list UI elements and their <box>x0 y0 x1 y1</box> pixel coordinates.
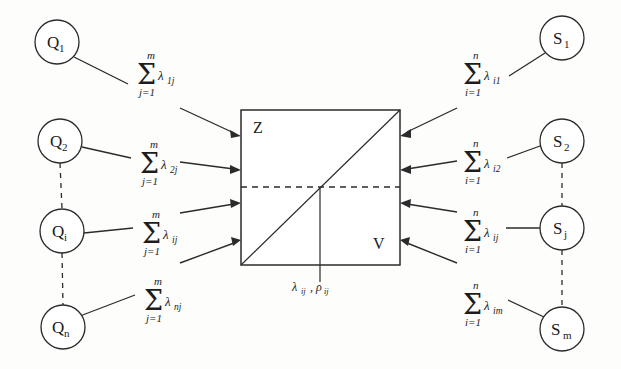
link-q2-to-sum2 <box>82 147 131 158</box>
sum-expression-right-3: n Σ i=1 λ ij <box>463 206 499 255</box>
caption-lambda-subscript: ij <box>301 286 306 296</box>
node-q2-base: Q <box>50 132 62 151</box>
sum-left-1-term-subscript: 1j <box>167 76 175 86</box>
dashed-connector-q2-qi <box>60 163 62 209</box>
arrow-right-1 <box>400 108 457 138</box>
caption-rho-subscript: ij <box>324 286 329 296</box>
flow-diagram: Z V λ ij , ρ ij Q 1 Q 2 Q i Q n <box>0 0 621 369</box>
sum-right-2-term: λ <box>483 156 490 171</box>
arrow-right-3 <box>400 199 457 212</box>
link-s2-to-sum2 <box>507 146 540 158</box>
sum-left-4-term: λ <box>164 294 171 309</box>
sum-left-1-term: λ <box>157 68 164 83</box>
arrow-right-2 <box>400 161 457 174</box>
sum-right-2-lower-limit: i=1 <box>465 174 481 186</box>
node-qi[interactable]: Q i <box>40 209 84 253</box>
sum-left-3-term: λ <box>162 227 169 242</box>
node-qi-base: Q <box>52 222 64 241</box>
sum-left-3-lower-limit: j=1 <box>142 245 160 257</box>
link-sm-to-sum4 <box>508 300 544 317</box>
sum-left-2-lower-limit: j=1 <box>140 175 158 187</box>
sum-right-4-term-subscript: im <box>493 306 503 316</box>
dashed-connector-qi-qn <box>62 253 63 305</box>
arrow-right-4 <box>400 237 457 263</box>
sum-right-3-term: λ <box>483 225 490 240</box>
sum-right-1-term: λ <box>483 68 490 83</box>
sum-right-3-term-subscript: ij <box>493 233 499 243</box>
sum-right-4-lower-limit: i=1 <box>465 316 481 328</box>
box-label-v: V <box>373 235 385 252</box>
sum-right-4-term: λ <box>483 298 490 313</box>
node-q1-subscript: 1 <box>59 42 65 54</box>
node-sm[interactable]: S m <box>540 307 584 351</box>
box-label-z: Z <box>253 119 263 136</box>
node-q2[interactable]: Q 2 <box>38 119 82 163</box>
node-s1-base: S <box>553 29 562 48</box>
node-s1-subscript: 1 <box>564 38 570 50</box>
caption-lambda: λ <box>291 280 297 294</box>
arrow-left-4 <box>180 237 241 263</box>
node-sj-subscript: j <box>563 228 567 240</box>
link-s1-to-sum1 <box>509 53 545 76</box>
node-qn[interactable]: Q n <box>41 305 85 349</box>
link-qi-to-sum3 <box>84 228 133 233</box>
caption-rho: ρ <box>315 280 322 294</box>
center-box-caption: λ ij , ρ ij <box>291 280 329 296</box>
node-sm-subscript: m <box>563 329 572 341</box>
arrow-left-3 <box>180 199 241 213</box>
sum-left-1-lower-limit: j=1 <box>137 86 155 98</box>
sum-expression-right-4: n Σ i=1 λ im <box>463 279 503 328</box>
node-sj-base: S <box>553 219 562 238</box>
arrow-left-1 <box>180 108 241 138</box>
sum-expression-left-4: m Σ j=1 λ nj <box>144 275 182 324</box>
sum-right-2-term-subscript: i2 <box>493 164 501 174</box>
node-s2-base: S <box>553 132 562 151</box>
node-sj[interactable]: S j <box>540 206 584 250</box>
link-qn-to-sum4 <box>80 295 135 316</box>
node-qn-base: Q <box>52 318 64 337</box>
caption-comma: , <box>310 280 313 294</box>
sum-left-4-term-subscript: nj <box>174 302 182 312</box>
sum-left-2-term-subscript: 2j <box>170 165 178 175</box>
node-sm-base: S <box>551 320 560 339</box>
sum-right-1-lower-limit: i=1 <box>465 86 481 98</box>
sum-left-3-term-subscript: ij <box>172 235 178 245</box>
diagram-canvas: Z V λ ij , ρ ij Q 1 Q 2 Q i Q n <box>0 0 621 369</box>
sum-right-1-term-subscript: i1 <box>493 76 500 86</box>
node-qn-subscript: n <box>64 327 70 339</box>
node-s1[interactable]: S 1 <box>540 16 584 60</box>
sum-left-2-term: λ <box>160 157 167 172</box>
sum-expression-left-1: m Σ j=1 λ 1j <box>137 49 175 98</box>
sum-left-4-lower-limit: j=1 <box>144 312 162 324</box>
node-q1-base: Q <box>47 33 59 52</box>
node-q1[interactable]: Q 1 <box>35 20 79 64</box>
link-q1-to-sum1 <box>74 57 128 84</box>
sum-expression-left-3: m Σ j=1 λ ij <box>142 208 178 257</box>
sum-right-3-lower-limit: i=1 <box>465 243 481 255</box>
sum-expression-left-2: m Σ j=1 λ 2j <box>140 138 178 187</box>
node-s2[interactable]: S 2 <box>540 119 584 163</box>
arrow-left-2 <box>180 162 241 174</box>
node-q2-subscript: 2 <box>62 141 68 153</box>
sum-expression-right-1: n Σ i=1 λ i1 <box>463 49 500 98</box>
node-qi-subscript: i <box>64 231 67 243</box>
sum-expression-right-2: n Σ i=1 λ i2 <box>463 137 501 186</box>
node-s2-subscript: 2 <box>564 141 570 153</box>
